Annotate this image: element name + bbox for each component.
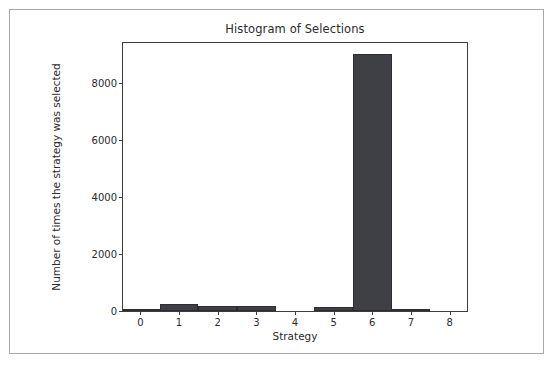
y-tick-label: 6000 <box>92 134 117 145</box>
y-tick-mark <box>119 83 123 84</box>
x-tick-mark <box>140 311 141 315</box>
x-tick-mark <box>450 311 451 315</box>
x-tick-mark <box>411 311 412 315</box>
y-tick-label: 8000 <box>92 77 117 88</box>
bar-6 <box>353 54 392 311</box>
y-tick-label: 4000 <box>92 191 117 202</box>
chart-title: Histogram of Selections <box>122 22 468 36</box>
x-tick-mark <box>218 311 219 315</box>
x-tick-label: 5 <box>330 317 336 328</box>
x-tick-label: 6 <box>369 317 375 328</box>
y-tick-mark <box>119 254 123 255</box>
x-axis-label: Strategy <box>122 330 468 342</box>
y-tick-label: 0 <box>111 306 117 317</box>
x-tick-label: 2 <box>215 317 221 328</box>
x-tick-label: 1 <box>176 317 182 328</box>
plot-axes: 02000400060008000 012345678 <box>122 42 468 312</box>
x-tick-mark <box>256 311 257 315</box>
x-tick-label: 0 <box>137 317 143 328</box>
figure-canvas: Histogram of Selections 0200040006000800… <box>0 0 554 365</box>
x-tick-label: 8 <box>446 317 452 328</box>
x-tick-mark <box>179 311 180 315</box>
y-tick-label: 2000 <box>92 248 117 259</box>
x-tick-label: 3 <box>253 317 259 328</box>
x-tick-mark <box>372 311 373 315</box>
x-tick-label: 7 <box>408 317 414 328</box>
y-axis-label: Number of times the strategy was selecte… <box>50 63 62 290</box>
y-tick-mark <box>119 197 123 198</box>
x-tick-mark <box>295 311 296 315</box>
x-tick-label: 4 <box>292 317 298 328</box>
y-tick-mark <box>119 140 123 141</box>
plot-area <box>123 43 467 311</box>
y-tick-mark <box>119 311 123 312</box>
x-tick-mark <box>334 311 335 315</box>
